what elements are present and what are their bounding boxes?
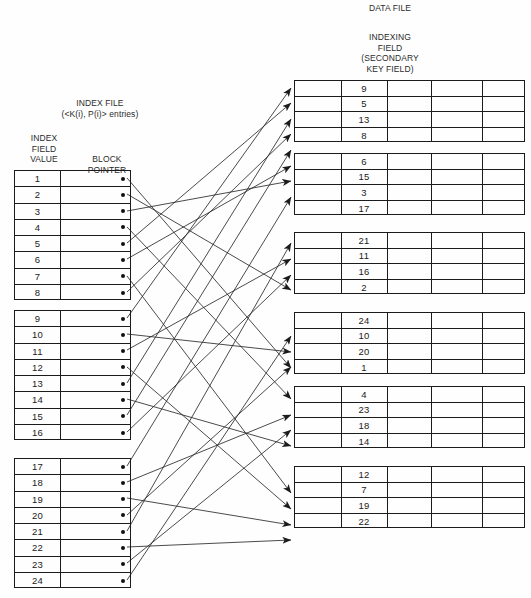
block-pointer-cell[interactable] (60, 360, 130, 375)
data-record-row[interactable]: 12 (295, 467, 524, 483)
record-field-a (295, 498, 341, 513)
data-record-row[interactable]: 20 (295, 344, 524, 360)
indexing-field-value: 1 (341, 360, 387, 376)
data-record-row[interactable]: 21 (295, 233, 524, 249)
block-pointer-cell[interactable] (60, 508, 130, 523)
index-entry-row[interactable]: 20 (15, 508, 130, 524)
record-field-d (431, 483, 482, 498)
index-field-value: 6 (15, 252, 60, 267)
record-field-d (431, 81, 482, 96)
record-field-e (482, 185, 524, 200)
block-pointer-cell[interactable] (60, 573, 130, 589)
block-pointer-cell[interactable] (60, 409, 130, 424)
index-entry-row[interactable]: 13 (15, 376, 130, 392)
block-pointer-cell[interactable] (60, 475, 130, 490)
block-pointer-cell[interactable] (60, 327, 130, 342)
pointer-dot-icon (121, 317, 125, 321)
index-field-value: 22 (15, 540, 60, 555)
record-field-d (431, 233, 482, 248)
index-entry-row[interactable]: 1 (15, 171, 130, 187)
block-pointer-cell[interactable] (60, 187, 130, 202)
index-entry-row[interactable]: 10 (15, 327, 130, 343)
record-field-d (431, 128, 482, 144)
data-record-row[interactable]: 24 (295, 313, 524, 329)
pointer-dot-icon (121, 497, 125, 501)
index-entry-row[interactable]: 7 (15, 269, 130, 285)
index-entry-row[interactable]: 4 (15, 220, 130, 236)
index-entry-row[interactable]: 16 (15, 425, 130, 441)
block-pointer-cell[interactable] (60, 204, 130, 219)
index-entry-row[interactable]: 19 (15, 492, 130, 508)
data-record-row[interactable]: 7 (295, 483, 524, 499)
index-entry-row[interactable]: 8 (15, 285, 130, 301)
block-pointer-cell[interactable] (60, 344, 130, 359)
index-entry-row[interactable]: 6 (15, 252, 130, 268)
indexing-field-value: 23 (341, 403, 387, 418)
index-entry-row[interactable]: 12 (15, 360, 130, 376)
data-record-row[interactable]: 18 (295, 418, 524, 434)
data-record-row[interactable]: 11 (295, 249, 524, 265)
data-record-row[interactable]: 22 (295, 514, 524, 530)
block-pointer-cell[interactable] (60, 269, 130, 284)
index-entry-row[interactable]: 15 (15, 409, 130, 425)
data-record-row[interactable]: 4 (295, 387, 524, 403)
data-record-row[interactable]: 16 (295, 264, 524, 280)
data-record-row[interactable]: 9 (295, 81, 524, 97)
indexing-field-value: 16 (341, 264, 387, 279)
index-entry-row[interactable]: 11 (15, 344, 130, 360)
record-field-a (295, 249, 341, 264)
data-record-row[interactable]: 8 (295, 128, 524, 144)
data-record-row[interactable]: 15 (295, 170, 524, 186)
block-pointer-cell[interactable] (60, 171, 130, 186)
block-pointer-cell[interactable] (60, 540, 130, 555)
index-entry-row[interactable]: 9 (15, 311, 130, 327)
indexing-field-value: 22 (341, 514, 387, 530)
data-record-row[interactable]: 10 (295, 329, 524, 345)
block-pointer-cell[interactable] (60, 285, 130, 301)
pointer-dot-icon (121, 242, 125, 246)
index-entry-row[interactable]: 22 (15, 540, 130, 556)
index-entry-row[interactable]: 3 (15, 204, 130, 220)
block-pointer-cell[interactable] (60, 311, 130, 326)
index-entry-row[interactable]: 5 (15, 236, 130, 252)
data-record-row[interactable]: 2 (295, 280, 524, 296)
index-entry-row[interactable]: 14 (15, 392, 130, 408)
index-entry-row[interactable]: 18 (15, 475, 130, 491)
block-pointer-cell[interactable] (60, 557, 130, 572)
data-record-row[interactable]: 17 (295, 201, 524, 217)
index-entry-row[interactable]: 24 (15, 573, 130, 589)
block-pointer-cell[interactable] (60, 376, 130, 391)
data-record-row[interactable]: 19 (295, 498, 524, 514)
block-pointer-cell[interactable] (60, 425, 130, 441)
index-entry-row[interactable]: 17 (15, 459, 130, 475)
data-record-row[interactable]: 23 (295, 403, 524, 419)
block-pointer-cell[interactable] (60, 236, 130, 251)
index-entry-row[interactable]: 21 (15, 524, 130, 540)
data-record-row[interactable]: 1 (295, 360, 524, 376)
indexing-field-value: 4 (341, 387, 387, 402)
index-field-value: 14 (15, 392, 60, 407)
data-record-row[interactable]: 6 (295, 154, 524, 170)
indexing-field-value: 17 (341, 201, 387, 217)
data-record-row[interactable]: 5 (295, 97, 524, 113)
record-field-a (295, 418, 341, 433)
data-record-row[interactable]: 13 (295, 112, 524, 128)
block-pointer-cell[interactable] (60, 220, 130, 235)
record-field-e (482, 233, 524, 248)
block-pointer-cell[interactable] (60, 252, 130, 267)
pointer-dot-icon (121, 274, 125, 278)
data-record-row[interactable]: 3 (295, 185, 524, 201)
index-field-value: 2 (15, 187, 60, 202)
data-record-row[interactable]: 14 (295, 434, 524, 450)
block-pointer-cell[interactable] (60, 392, 130, 407)
block-pointer-cell[interactable] (60, 459, 130, 474)
block-pointer-cell[interactable] (60, 492, 130, 507)
block-pointer-cell[interactable] (60, 524, 130, 539)
index-entry-row[interactable]: 23 (15, 557, 130, 573)
data-block: 24 10 20 1 (294, 312, 525, 374)
index-entry-row[interactable]: 2 (15, 187, 130, 203)
record-field-c (387, 249, 431, 264)
indexing-field-value: 19 (341, 498, 387, 513)
pointer-dot-icon (121, 431, 125, 435)
record-field-d (431, 329, 482, 344)
